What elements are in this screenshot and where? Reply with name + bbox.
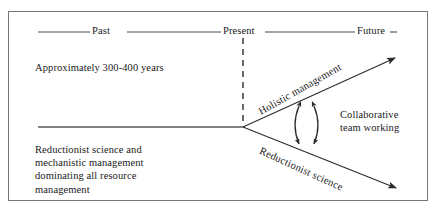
collaboration-arrow-left: [295, 106, 299, 144]
axis-label-present: Present: [223, 26, 255, 37]
duration-annotation: Approximately 300-400 years: [35, 61, 164, 74]
collaborative-team-working-label: Collaborative team working: [340, 108, 399, 134]
axis-label-past: Past: [92, 26, 110, 37]
collaboration-arrow-right: [314, 106, 318, 144]
past-paradigm-annotation: Reductionist science and mechanistic man…: [35, 143, 144, 196]
axis-label-future: Future: [357, 26, 385, 37]
diagram-figure: Past Present Future Approximately 300-40…: [0, 0, 438, 212]
